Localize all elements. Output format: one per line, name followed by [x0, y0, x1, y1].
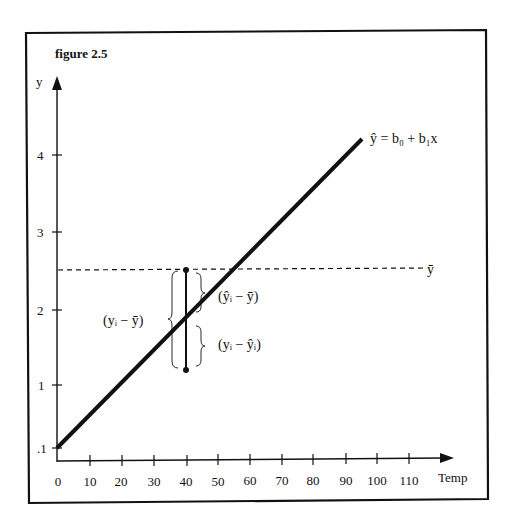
x-tick-label: 0 [55, 474, 62, 489]
figure-canvas: figure 2.5 y 4 3 2 1 .1 [0, 0, 511, 528]
y-tick-label: .1 [37, 441, 47, 456]
total-deviation-label: (yᵢ − ȳ) [103, 313, 144, 329]
x-ticks [90, 453, 409, 466]
y-axis: y 4 3 2 1 .1 [36, 74, 62, 462]
figure-frame [26, 30, 488, 503]
x-axis-arrow-icon [440, 453, 454, 463]
x-tick-label: 40 [180, 474, 193, 489]
x-tick-label: 100 [367, 473, 387, 488]
x-tick-label: 10 [84, 474, 97, 489]
x-tick-label: 80 [307, 473, 320, 488]
y-tick-label: 1 [38, 378, 45, 393]
total-deviation-brace [168, 271, 178, 368]
y-tick-label: 3 [37, 225, 44, 240]
x-axis: 0 10 20 30 40 50 60 70 80 90 100 110 Tem… [55, 453, 468, 489]
x-tick-label: 20 [115, 474, 128, 489]
y-tick-label: 4 [37, 148, 44, 163]
x-tick-label: 90 [340, 473, 353, 488]
y-axis-arrow-icon [52, 76, 62, 90]
regression-equation: ŷ = b₀ + b₁x [370, 131, 438, 146]
regression-line [57, 139, 362, 448]
mean-line [58, 268, 424, 270]
residual-deviation-brace [196, 326, 205, 366]
figure-title: figure 2.5 [55, 46, 108, 61]
mean-label: ȳ [427, 262, 434, 277]
x-tick-label: 50 [212, 474, 225, 489]
x-tick-label: 60 [244, 473, 257, 488]
y-axis-label: y [36, 74, 43, 89]
x-tick-label: 110 [399, 473, 418, 488]
y-ticks: 4 3 2 1 .1 [37, 148, 62, 456]
y-tick-label: 2 [37, 303, 44, 318]
x-tick-label: 70 [276, 473, 289, 488]
x-axis-label: Temp [438, 470, 467, 485]
mean-point [183, 267, 189, 273]
residual-deviation-label: (yᵢ − ŷᵢ) [218, 337, 261, 353]
observed-point [183, 367, 189, 373]
explained-deviation-label: (ŷᵢ − ȳ) [218, 289, 259, 305]
x-tick-label: 30 [148, 474, 161, 489]
